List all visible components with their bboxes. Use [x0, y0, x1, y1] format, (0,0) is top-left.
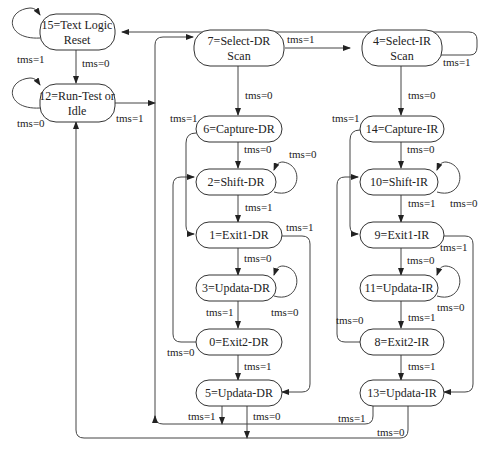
state-11-updata-ir: 11=Updata-IR	[360, 275, 438, 301]
state-0-exit2-dr: 0=Exit2-DR	[196, 329, 282, 355]
state-5-updata-dr: 5=Updata-DR	[196, 380, 282, 406]
svg-text:4=Select-IR: 4=Select-IR	[373, 34, 431, 48]
label-1-to-5: tms=1	[286, 221, 314, 233]
svg-text:12=Run-Test or: 12=Run-Test or	[39, 89, 115, 103]
label-4-to-14: tms=0	[408, 89, 436, 101]
label-2-self: tms=0	[289, 148, 317, 160]
svg-text:9=Exit1-IR: 9=Exit1-IR	[375, 228, 430, 242]
label-6-to-2: tms=0	[244, 143, 272, 155]
label-5-to-12: tms=0	[253, 410, 281, 422]
edge-14-to-9	[350, 130, 360, 234]
svg-text:2=Shift-DR: 2=Shift-DR	[208, 175, 265, 189]
edge-6-to-1	[186, 133, 196, 234]
svg-text:15=Text Logic: 15=Text Logic	[42, 18, 113, 32]
edge-10-self	[437, 162, 460, 193]
state-1-exit1-dr: 1=Exit1-DR	[196, 222, 282, 248]
svg-text:8=Exit2-IR: 8=Exit2-IR	[375, 335, 430, 349]
edge-2-self	[274, 162, 297, 193]
state-8-exit2-ir: 8=Exit2-IR	[360, 329, 444, 355]
label-14-to-10: tms=0	[407, 143, 435, 155]
state-3-updata-dr: 3=Updata-DR	[196, 275, 276, 301]
label-9-to-13: tms=1	[440, 241, 468, 253]
state-9-exit1-ir: 9=Exit1-IR	[360, 222, 444, 248]
svg-text:10=Shift-IR: 10=Shift-IR	[370, 175, 428, 189]
edge-0-to-2	[173, 177, 196, 342]
svg-text:7=Select-DR: 7=Select-DR	[208, 34, 271, 48]
label-14-to-9: tms=1	[332, 112, 360, 124]
state-7-select-dr-scan: 7=Select-DR Scan	[194, 30, 284, 66]
label-13-to-12: tms=0	[377, 426, 405, 438]
svg-text:5=Updata-DR: 5=Updata-DR	[205, 386, 273, 400]
edge-12-self	[12, 78, 40, 108]
state-4-select-ir-scan: 4=Select-IR Scan	[362, 30, 442, 66]
state-12-run-test-idle: 12=Run-Test or Idle	[39, 84, 115, 122]
label-7-to-6: tms=0	[245, 89, 273, 101]
state-10-shift-ir: 10=Shift-IR	[360, 169, 438, 195]
label-0-to-2: tms=0	[167, 346, 195, 358]
label-0-to-5: tms=1	[244, 360, 272, 372]
label-2-to-1: tms=1	[245, 201, 273, 213]
label-8-to-10: tms=0	[336, 314, 364, 326]
svg-text:Idle: Idle	[68, 104, 87, 118]
label-4-to-15: tms=1	[443, 56, 471, 68]
state-13-updata-ir: 13=Updata-IR	[360, 380, 444, 406]
label-11-self: tms=0	[437, 301, 465, 313]
tap-state-diagram: 15=Text Logic Reset 12=Run-Test or Idle …	[0, 0, 491, 453]
label-12-to-7: tms=1	[116, 112, 144, 124]
label-3-to-0: tms=1	[206, 306, 234, 318]
label-12-self: tms=0	[17, 117, 45, 129]
svg-text:Reset: Reset	[64, 33, 91, 47]
label-9-to-11: tms=0	[407, 254, 435, 266]
edge-9-to-13	[444, 236, 473, 392]
label-13-to-7: tms=1	[338, 412, 366, 424]
svg-text:3=Updata-DR: 3=Updata-DR	[202, 281, 270, 295]
label-3-self: tms=0	[271, 306, 299, 318]
state-2-shift-dr: 2=Shift-DR	[196, 169, 276, 195]
label-11-to-8: tms=1	[408, 311, 436, 323]
svg-text:1=Exit1-DR: 1=Exit1-DR	[209, 228, 268, 242]
edge-3-self	[274, 266, 297, 297]
svg-text:14=Capture-IR: 14=Capture-IR	[366, 122, 439, 136]
edge-bus-to-7	[155, 37, 193, 420]
label-7-to-4: tms=1	[287, 33, 315, 45]
label-1-to-3: tms=0	[244, 252, 272, 264]
svg-text:13=Updata-IR: 13=Updata-IR	[367, 386, 436, 400]
svg-text:11=Updata-IR: 11=Updata-IR	[365, 281, 434, 295]
svg-text:Scan: Scan	[390, 49, 413, 63]
label-5-to-7: tms=1	[188, 410, 216, 422]
svg-text:Scan: Scan	[227, 49, 250, 63]
svg-text:0=Exit2-DR: 0=Exit2-DR	[209, 335, 268, 349]
label-6-to-1: tms=1	[170, 112, 198, 124]
state-14-capture-ir: 14=Capture-IR	[360, 116, 444, 142]
label-10-self: tms=0	[450, 197, 478, 209]
label-8-to-13: tms=1	[408, 360, 436, 372]
label-10-to-9: tms=1	[408, 197, 436, 209]
state-15-test-logic-reset: 15=Text Logic Reset	[40, 14, 115, 50]
label-15-self: tms=1	[17, 53, 45, 65]
svg-text:6=Capture-DR: 6=Capture-DR	[203, 122, 274, 136]
label-15-to-12: tms=0	[82, 57, 110, 69]
state-6-capture-dr: 6=Capture-DR	[196, 116, 282, 142]
edge-11-self	[437, 266, 460, 297]
edge-15-self	[12, 8, 40, 38]
